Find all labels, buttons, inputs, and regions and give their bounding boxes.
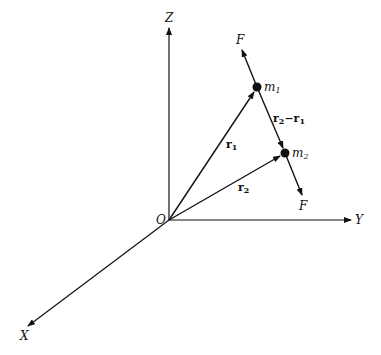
mass-2-label: m2: [292, 146, 308, 161]
y-axis-label: Y: [355, 213, 364, 227]
z-axis-label: Z: [164, 11, 174, 25]
upper-force-vector: [242, 50, 257, 87]
mass-2-dot: [281, 149, 290, 158]
r1-label: r1: [226, 138, 237, 152]
x-axis: [28, 220, 169, 326]
origin-label: O: [156, 213, 166, 227]
x-axis-label: X: [19, 329, 29, 343]
mass-1-label: m1: [264, 80, 280, 95]
r2-label: r2: [238, 181, 249, 195]
mass-1-dot: [253, 83, 262, 92]
force-diagram: Z Y X O m1 m2 r1 r2 r2−r1 F F: [0, 0, 381, 355]
lower-force-label: F: [298, 199, 308, 213]
r1-vector: [169, 92, 254, 220]
r2-minus-r1-label: r2−r1: [273, 112, 305, 126]
r2-vector: [169, 156, 280, 220]
upper-force-label: F: [235, 33, 245, 47]
